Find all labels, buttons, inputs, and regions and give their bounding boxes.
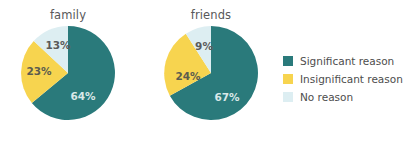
- legend-label-insignificant: Insignificant reason: [300, 74, 403, 85]
- pie-title-friends: friends: [164, 8, 258, 22]
- pie-chart-figure: family 64% 23% 13% friends 67% 24% 9%: [0, 0, 413, 152]
- pie-label-insignificant-friends: 24%: [175, 70, 201, 82]
- legend-label-none: No reason: [300, 92, 353, 103]
- pie-label-none-friends: 9%: [195, 40, 213, 52]
- legend-swatch-icon-significant: [283, 56, 293, 66]
- pie-svg-family: 64% 23% 13%: [21, 26, 115, 120]
- pie-chart-friends: friends 67% 24% 9%: [164, 8, 258, 120]
- legend-item-insignificant-reason[interactable]: Insignificant reason: [283, 72, 403, 86]
- pie-chart-family: family 64% 23% 13%: [21, 8, 115, 120]
- legend-label-significant: Significant reason: [300, 56, 394, 67]
- chart-legend: Significant reason Insignificant reason …: [283, 54, 403, 108]
- legend-item-significant-reason[interactable]: Significant reason: [283, 54, 403, 68]
- pie-label-significant-family: 64%: [70, 90, 96, 102]
- legend-item-no-reason[interactable]: No reason: [283, 90, 403, 104]
- pie-label-significant-friends: 67%: [214, 91, 240, 103]
- legend-swatch-icon-insignificant: [283, 74, 293, 84]
- pie-title-family: family: [21, 8, 115, 22]
- pie-label-insignificant-family: 23%: [26, 65, 52, 77]
- pie-svg-friends: 67% 24% 9%: [164, 26, 258, 120]
- legend-swatch-icon-none: [283, 92, 293, 102]
- pie-label-none-family: 13%: [45, 39, 71, 51]
